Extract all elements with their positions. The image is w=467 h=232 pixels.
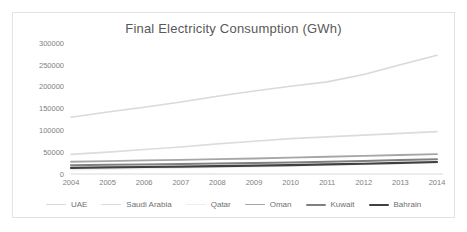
y-axis-tick-label: 100000 [39, 126, 64, 135]
legend-swatch-icon [369, 204, 389, 206]
legend-swatch-icon [46, 204, 66, 205]
y-axis-tick-label: 50000 [43, 148, 64, 157]
x-axis-tick-label: 2012 [355, 178, 372, 187]
legend-label: Bahrain [394, 200, 422, 209]
plot-area: 300000250000200000150000100000500000 200… [13, 13, 456, 219]
x-axis-tick-label: 2013 [392, 178, 409, 187]
y-axis-tick-label: 300000 [39, 39, 64, 48]
x-axis-tick-label: 2004 [63, 178, 80, 187]
y-axis-tick-label: 150000 [39, 104, 64, 113]
legend-swatch-icon [245, 204, 265, 205]
y-axis-tick-labels: 300000250000200000150000100000500000 [39, 39, 64, 179]
x-axis-tick-label: 2006 [136, 178, 153, 187]
x-axis-tick-label: 2014 [429, 178, 446, 187]
legend-item-uae[interactable]: UAE [46, 200, 87, 209]
legend-item-qatar[interactable]: Qatar [186, 200, 231, 209]
legend-swatch-icon [186, 204, 206, 205]
legend-swatch-icon [306, 204, 326, 206]
x-axis-tick-label: 2007 [172, 178, 189, 187]
legend-label: Oman [270, 200, 292, 209]
chart-legend: UAESaudi ArabiaQatarOmanKuwaitBahrain [13, 200, 454, 209]
x-axis-tick-labels: 2004200520062007200820092010201120122013… [63, 178, 446, 187]
legend-item-kuwait[interactable]: Kuwait [306, 200, 355, 209]
x-axis-tick-label: 2010 [282, 178, 299, 187]
legend-item-oman[interactable]: Oman [245, 200, 292, 209]
chart-card: Final Electricity Consumption (GWh) 3000… [12, 12, 455, 218]
legend-label: Qatar [211, 200, 231, 209]
legend-label: Kuwait [331, 200, 355, 209]
x-axis-tick-label: 2008 [209, 178, 226, 187]
x-axis-tick-label: 2009 [246, 178, 263, 187]
legend-label: UAE [71, 200, 87, 209]
series-lines [71, 55, 437, 169]
legend-item-saudi-arabia[interactable]: Saudi Arabia [101, 200, 171, 209]
legend-label: Saudi Arabia [126, 200, 171, 209]
series-line-saudi-arabia [71, 132, 437, 155]
y-axis-tick-label: 250000 [39, 61, 64, 70]
y-axis-tick-label: 200000 [39, 82, 64, 91]
x-axis-tick-label: 2011 [319, 178, 335, 187]
legend-swatch-icon [101, 204, 121, 205]
series-line-uae [71, 55, 437, 117]
x-axis-tick-label: 2005 [99, 178, 116, 187]
legend-item-bahrain[interactable]: Bahrain [369, 200, 422, 209]
line-chart-svg: 300000250000200000150000100000500000 200… [13, 13, 456, 219]
